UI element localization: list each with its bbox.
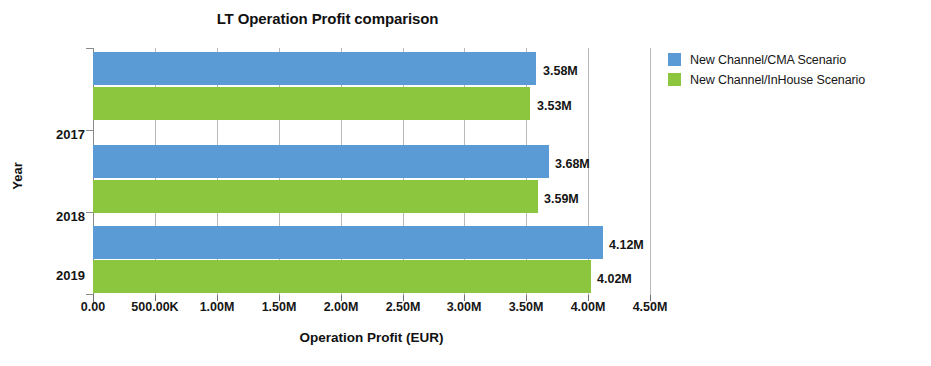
y-axis-tick-label-2017: 2017 [56,127,85,142]
bar-2018-cma[interactable] [93,145,549,178]
x-axis-tick-label-7: 3.50M [509,300,544,314]
x-axis-tick-label-1: 500.00K [131,300,178,314]
y-axis-tick-0 [86,48,93,49]
bar-value-label-2017-cma: 3.58M [543,65,578,78]
x-axis-tick-label-4: 2.00M [324,300,359,314]
gridline-9 [650,48,651,295]
bar-2017-cma[interactable] [93,52,536,85]
x-axis-tick-label-9: 4.50M [633,300,668,314]
x-axis-tick-label-3: 1.50M [262,300,297,314]
bar-2017-inhouse[interactable] [93,87,530,120]
bar-2019-inhouse[interactable] [93,260,591,293]
bar-value-label-2019-cma: 4.12M [609,239,644,252]
bar-value-label-2018-cma: 3.68M [555,158,590,171]
x-axis-tick-label-2: 1.00M [200,300,235,314]
bar-2019-cma[interactable] [93,226,603,259]
y-axis-tick-label-2019: 2019 [56,268,85,283]
y-axis-tick-3 [86,294,93,295]
legend-label-cma: New Channel/CMA Scenario [690,53,846,67]
legend-item-cma[interactable]: New Channel/CMA Scenario [668,52,926,67]
bar-value-label-2018-inhouse: 3.59M [544,193,579,206]
plot-area: 3.58M 3.53M 3.68M 3.59M 4.12M 4.02M [93,48,650,295]
x-axis-tick-label-8: 4.00M [571,300,606,314]
x-axis-tick-label-0: 0.00 [81,300,105,314]
legend-swatch-icon-inhouse [668,73,681,86]
legend-label-inhouse: New Channel/InHouse Scenario [690,73,865,87]
x-axis-tick-label-5: 2.50M [386,300,421,314]
bar-chart: LT Operation Profit comparison Year 2017… [0,0,931,366]
bar-2018-inhouse[interactable] [93,180,538,213]
y-axis-tick-1 [86,130,93,131]
y-axis-category-labels: 2017 2018 2019 [0,48,93,295]
bar-value-label-2017-inhouse: 3.53M [537,100,572,113]
x-axis-title: Operation Profit (EUR) [93,330,650,345]
y-axis-tick-label-2018: 2018 [56,209,85,224]
legend-swatch-icon-cma [668,53,681,66]
y-axis-tick-2 [86,212,93,213]
chart-title: LT Operation Profit comparison [0,10,655,27]
legend-item-inhouse[interactable]: New Channel/InHouse Scenario [668,72,926,87]
x-axis-tick-label-6: 3.00M [447,300,482,314]
chart-legend: New Channel/CMA Scenario New Channel/InH… [668,52,926,92]
bar-value-label-2019-inhouse: 4.02M [597,273,632,286]
